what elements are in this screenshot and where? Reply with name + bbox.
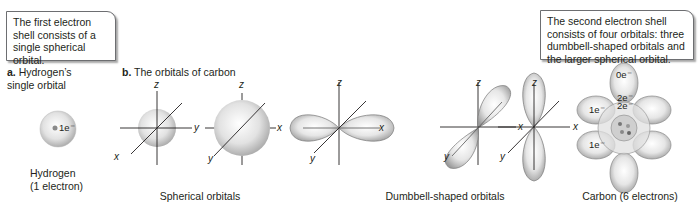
spherical-orbital-small: z y x — [113, 79, 200, 165]
hydrogen-caption: Hydrogen (1 electron) — [30, 167, 90, 192]
spherical-orbital-large: z x y — [205, 79, 283, 165]
hydrogen-orbital: 1e⁻ — [40, 111, 76, 147]
dumbbell-orbital-x: z x y — [290, 77, 394, 165]
hydrogen-electron-label: 1e⁻ — [59, 122, 75, 133]
carbon-label-1e-upper: 1e⁻ — [589, 104, 605, 115]
svg-text:z: z — [475, 77, 481, 88]
svg-text:y: y — [309, 153, 316, 164]
svg-text:y: y — [193, 122, 200, 133]
svg-text:x: x — [378, 122, 385, 133]
carbon-caption: Carbon (6 electrons) — [575, 190, 685, 203]
orbital-diagram: 1e⁻ z y x z x y z x y — [0, 0, 698, 206]
svg-text:x: x — [113, 151, 120, 162]
svg-text:z: z — [336, 77, 342, 88]
dumbbell-orbitals-caption: Dumbbell-shaped orbitals — [380, 190, 510, 203]
svg-text:z: z — [238, 79, 244, 90]
carbon-label-2e-inner: 2e⁻ — [617, 100, 633, 111]
svg-text:x: x — [517, 121, 524, 132]
carbon-label-0e: 0e⁻ — [616, 69, 632, 80]
carbon-label-1e-lower: 1e⁻ — [589, 139, 605, 150]
svg-text:x: x — [276, 122, 283, 133]
svg-text:x: x — [572, 121, 579, 132]
svg-text:z: z — [153, 79, 159, 90]
svg-text:y: y — [443, 151, 450, 162]
svg-text:z: z — [531, 77, 537, 88]
spherical-orbitals-caption: Spherical orbitals — [150, 190, 250, 203]
carbon-atom: 0e⁻ 2e⁻ 2e⁻ 1e⁻ 1e⁻ — [577, 63, 671, 193]
dumbbell-orbital-y: z x y — [440, 77, 524, 168]
svg-text:y: y — [207, 153, 214, 164]
dumbbell-orbital-z: z x y — [498, 73, 579, 181]
svg-text:y: y — [499, 151, 506, 162]
